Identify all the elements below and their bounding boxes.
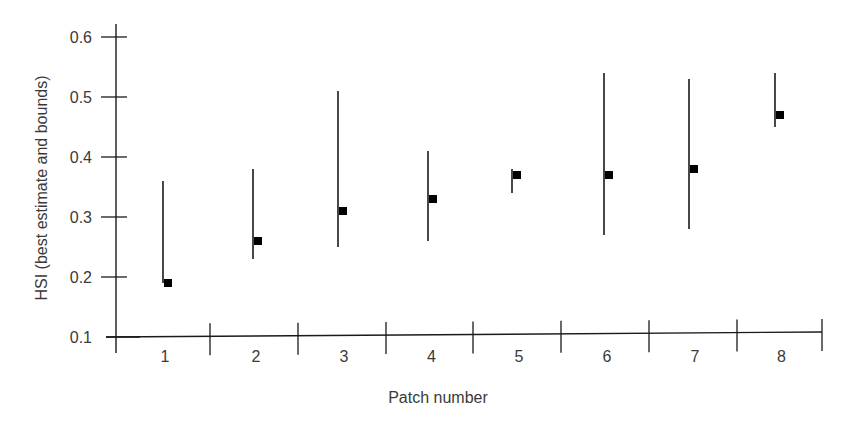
error-bar-patch-7 <box>689 79 698 229</box>
best-estimate-marker <box>605 171 613 179</box>
best-estimate-marker <box>254 237 262 245</box>
best-estimate-marker <box>690 165 698 173</box>
best-estimate-marker <box>429 195 437 203</box>
error-bar-patch-2 <box>253 169 262 259</box>
x-tick-label: 1 <box>161 348 170 365</box>
error-bar-patch-6 <box>604 73 613 235</box>
y-tick-label: 0.5 <box>70 89 92 106</box>
x-tick-label: 8 <box>777 348 786 365</box>
y-tick-label: 0.2 <box>70 269 92 286</box>
x-tick-label: 2 <box>252 348 261 365</box>
x-tick-label: 6 <box>603 348 612 365</box>
error-bar-patch-1 <box>163 181 172 287</box>
best-estimate-marker <box>513 171 521 179</box>
y-axis: 0.10.20.30.40.50.6 <box>70 24 140 353</box>
error-bar-chart: 0.10.20.30.40.50.6 12345678 HSI (best es… <box>0 0 849 421</box>
x-tick-label: 7 <box>691 348 700 365</box>
best-estimate-marker <box>164 279 172 287</box>
x-tick-label: 3 <box>340 348 349 365</box>
error-bar-patch-8 <box>775 73 784 127</box>
error-bars <box>163 73 784 287</box>
x-axis-title: Patch number <box>388 389 488 406</box>
y-tick-label: 0.6 <box>70 29 92 46</box>
x-axis: 12345678 <box>106 319 822 365</box>
best-estimate-marker <box>776 111 784 119</box>
error-bar-patch-5 <box>512 169 521 193</box>
best-estimate-marker <box>339 207 347 215</box>
x-tick-label: 4 <box>427 348 436 365</box>
error-bar-patch-3 <box>338 91 347 247</box>
x-tick-label: 5 <box>515 348 524 365</box>
y-tick-label: 0.1 <box>70 329 92 346</box>
y-axis-title: HSI (best estimate and bounds) <box>33 75 50 300</box>
error-bar-patch-4 <box>428 151 437 241</box>
y-tick-label: 0.3 <box>70 209 92 226</box>
y-tick-label: 0.4 <box>70 149 92 166</box>
